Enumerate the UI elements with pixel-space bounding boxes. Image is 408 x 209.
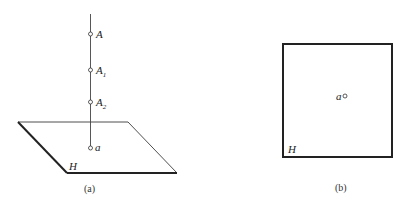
- plane-left-edge: [18, 122, 67, 173]
- figure-a: A A1 A2 a H (a): [18, 14, 177, 195]
- plane-right-edge: [128, 122, 177, 173]
- label-A: A: [95, 28, 103, 40]
- label-A1: A1: [95, 64, 106, 79]
- point-a-projection: [89, 146, 93, 150]
- projection-diagram: A A1 A2 a H (a) a H (b): [0, 0, 408, 209]
- figure-b: a H (b): [283, 44, 392, 194]
- caption-a: (a): [84, 183, 95, 195]
- point-a2: [89, 100, 93, 104]
- caption-b: (b): [335, 182, 347, 194]
- point-a-projection: [343, 94, 347, 98]
- label-a: a: [336, 90, 342, 102]
- label-a: a: [95, 141, 101, 153]
- point-a1: [89, 68, 93, 72]
- plane-label-h: H: [68, 160, 78, 172]
- plane-label-h: H: [287, 143, 297, 155]
- point-a-upper: [89, 32, 93, 36]
- label-A2: A2: [95, 96, 107, 111]
